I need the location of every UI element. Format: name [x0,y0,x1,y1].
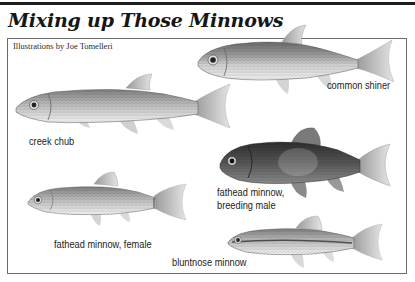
label-fathead-minnow-female: fathead minnow, female [54,238,152,251]
label-fathead-minnow-male-line1: fathead minnow, [217,186,284,199]
fathead-minnow-female-illustration [26,170,191,232]
label-common-shiner: common shiner [327,79,390,92]
creek-chub-illustration [14,74,234,144]
label-creek-chub: creek chub [29,135,74,148]
illustration-credit: Illustrations by Joe Tomelleri [13,41,113,51]
bluntnose-minnow-illustration [226,214,386,274]
label-bluntnose-minnow: bluntnose minnow [172,256,246,269]
label-fathead-minnow-male-line2: breeding male [217,199,276,212]
top-rule [0,2,415,5]
